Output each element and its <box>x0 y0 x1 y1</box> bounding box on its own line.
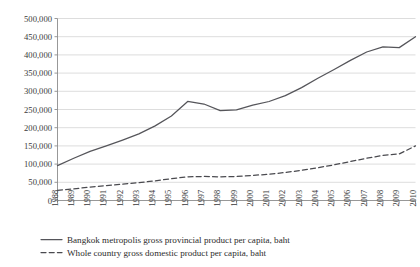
x-axis-tick-label: 1990 <box>83 190 92 207</box>
legend: Bangkok metropolis gross provincial prod… <box>41 235 290 258</box>
y-axis-tick-label: 150,000 <box>24 141 52 151</box>
axes <box>55 19 416 204</box>
x-axis-tick-label: 1989 <box>67 190 76 207</box>
legend-label-2: Whole country gross domestic product per… <box>67 248 266 258</box>
x-axis-tick-label: 1998 <box>213 190 222 207</box>
y-axis-tick-label: 400,000 <box>24 50 52 60</box>
y-axis-tick-label: 250,000 <box>24 105 52 115</box>
y-axis-tick-label: 100,000 <box>24 159 52 169</box>
x-axis-tick-label: 1999 <box>230 190 239 207</box>
x-axis-tick-label: 1993 <box>132 190 141 207</box>
chart-container: 050,000100,000150,000200,000250,000300,0… <box>0 0 420 267</box>
y-axis-tick-label: 350,000 <box>24 68 52 78</box>
y-axis-tick-label: 300,000 <box>24 86 52 96</box>
x-axis-tick-label: 1994 <box>148 189 157 207</box>
x-axis-tick-label: 2004 <box>311 189 320 207</box>
x-axis-tick-label: 1996 <box>181 190 190 207</box>
x-axis-tick-label: 2002 <box>278 190 287 207</box>
data-series <box>58 37 416 191</box>
x-axis-tick-label: 2006 <box>343 190 352 207</box>
x-axis-tick-label: 2009 <box>392 190 401 207</box>
series-line-2 <box>58 146 416 190</box>
x-axis-tick-label: 1992 <box>116 190 125 207</box>
y-axis-tick-label: 450,000 <box>24 32 52 42</box>
x-axis-tick-label: 2000 <box>246 190 255 207</box>
x-axis-tick-label: 2010 <box>409 190 418 207</box>
y-axis-labels: 050,000100,000150,000200,000250,000300,0… <box>24 14 52 206</box>
x-axis-tick-label: 1988 <box>51 190 60 207</box>
y-axis-tick-label: 50,000 <box>28 177 52 187</box>
x-axis-tick-label: 2005 <box>327 190 336 207</box>
x-axis-tick-label: 1997 <box>197 190 206 207</box>
x-axis-tick-label: 2008 <box>376 190 385 207</box>
line-chart: 050,000100,000150,000200,000250,000300,0… <box>0 0 420 267</box>
legend-label-1: Bangkok metropolis gross provincial prod… <box>67 235 290 245</box>
x-axis-tick-label: 1995 <box>164 190 173 207</box>
x-axis-tick-label: 2003 <box>295 190 304 207</box>
x-axis-tick-label: 2007 <box>360 190 369 207</box>
x-axis-tick-label: 1991 <box>99 190 108 207</box>
gridlines <box>58 19 416 183</box>
x-axis-labels: 1988198919901991199219931994199519961997… <box>51 189 418 207</box>
y-axis-tick-label: 500,000 <box>24 14 52 24</box>
y-axis-tick-label: 200,000 <box>24 123 52 133</box>
x-axis-tick-label: 2001 <box>262 190 271 207</box>
